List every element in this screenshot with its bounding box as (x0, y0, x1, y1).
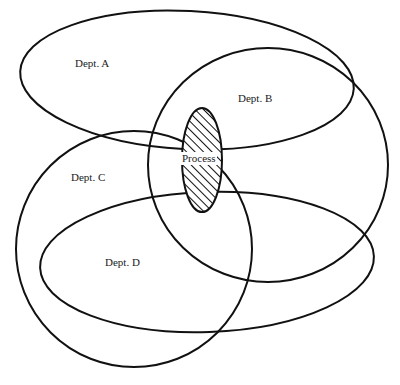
dept-a-label: Dept. A (75, 58, 109, 69)
process-label: Process (181, 152, 217, 165)
dept-c-label: Dept. C (71, 172, 105, 183)
dept-b-label: Dept. B (238, 93, 272, 104)
dept-d-label: Dept. D (105, 257, 140, 268)
diagram-canvas: Dept. A Dept. B Dept. C Dept. D Process (0, 0, 400, 385)
venn-diagram (0, 0, 400, 385)
